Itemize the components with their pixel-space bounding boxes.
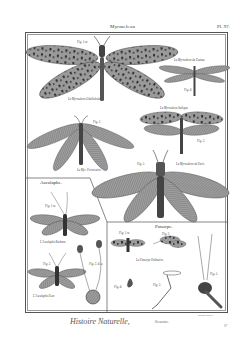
pan2-label: Fig. 2.	[162, 232, 170, 236]
page-number: 97	[224, 324, 227, 328]
figure-panorpe-3	[198, 234, 221, 307]
fig2-label: Fig. 2.	[93, 120, 101, 124]
figure-ascalaphe-barbare	[30, 192, 101, 238]
fig3-label: Fig. 3.	[197, 139, 205, 143]
fig5-caption: Le Myrmeleon de Paris.	[176, 162, 205, 166]
asc1-label: Fig. 1.re	[45, 204, 55, 208]
asc1-caption: L'Ascalaphe Barbare.	[40, 240, 66, 244]
pan1-label: Fig. 1.re	[119, 231, 129, 235]
figure-myrmeleon-formicaire	[25, 116, 136, 174]
figure-myrmeleon-guinee	[159, 64, 231, 96]
fig4-caption: Le Myrmeleon de Guinee.	[174, 58, 205, 62]
footer-subtitle: Insectes.	[155, 319, 169, 324]
figure-panorpe-ordinaire	[111, 238, 145, 252]
section-title-ascalaphe: Ascalaphe.	[40, 180, 62, 185]
fig1-caption: Le Myrmeleon Libelluloide.	[68, 97, 101, 101]
asc2-label: Fig. 2.	[43, 262, 51, 266]
footer-title: Histoire Naturelle,	[70, 317, 130, 326]
fig2-caption: Le Myr. Formicaire.	[77, 168, 101, 172]
fig5-label: Fig. 5.	[137, 162, 145, 166]
figure-myrmeleon-paris	[90, 150, 232, 227]
asc3-label: Fig. 3. 4. a.	[89, 262, 103, 266]
fig4-label: Fig. 4.	[184, 88, 192, 92]
pan1-caption: La Panorpe Ordinaire.	[136, 258, 164, 262]
pan4-label: Fig. 4.	[114, 285, 122, 289]
figure-myrmeleon-libelluloide	[25, 36, 178, 105]
fig1-label: Fig. 1.re	[77, 40, 87, 44]
pan3-label: Fig. 3.	[153, 283, 161, 287]
pan5-label: Fig. 5.	[210, 272, 218, 276]
asc2-caption: L'Ascalaphe Ecar.	[33, 294, 55, 298]
fig3-caption: Le Myrmeleon Italique.	[160, 106, 188, 110]
figure-ascalaphe-ecar	[28, 253, 87, 291]
engraver-credit: Bénard Direxit	[198, 314, 213, 317]
section-title-panorpe: Panorpe.	[155, 224, 173, 229]
figure-panorpe-2	[153, 236, 186, 248]
figure-panorpe-4	[127, 279, 132, 287]
figure-panorpe-5	[152, 271, 181, 309]
figure-myrmeleon-italique	[140, 111, 224, 154]
